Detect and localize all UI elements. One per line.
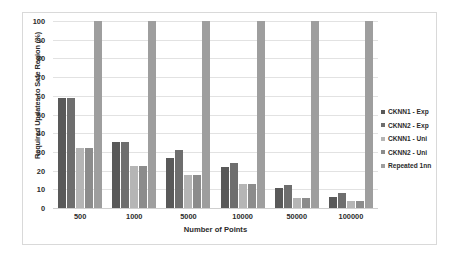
x-axis-title: Number of Points [53, 225, 378, 234]
x-axis-tick-label: 1000 [107, 212, 161, 221]
bar-groups [53, 21, 378, 208]
legend-label: CKNN2 - Exp [388, 122, 429, 129]
bar [67, 98, 75, 208]
y-axis-tick-label: 40 [15, 129, 45, 138]
bar [112, 142, 120, 208]
bar [356, 201, 364, 208]
y-axis-tick-label: 50 [15, 111, 45, 120]
legend-swatch-icon [381, 123, 385, 127]
x-axis-tick-label: 5000 [161, 212, 215, 221]
bar-group [216, 21, 270, 208]
bar [175, 150, 183, 208]
bar-group [53, 21, 107, 208]
legend-swatch-icon [381, 164, 385, 168]
bar [239, 184, 247, 208]
bar [338, 193, 346, 208]
bar [139, 166, 147, 208]
y-axis-tick-label: 80 [15, 54, 45, 63]
plot-area: 1009080706050403020100 [53, 21, 378, 208]
legend-label: CKNN1 - Exp [388, 108, 429, 115]
bar [121, 142, 129, 208]
bar [230, 163, 238, 208]
legend-swatch-icon [381, 150, 385, 154]
bar [148, 21, 156, 208]
bar [347, 201, 355, 208]
bar-group [161, 21, 215, 208]
bar [58, 98, 66, 208]
legend-item: CKNN2 - Exp [381, 119, 461, 133]
x-axis-tick-labels: 500100050001000050000100000 [53, 212, 378, 221]
legend-swatch-icon [381, 137, 385, 141]
bar [365, 21, 373, 208]
bar [193, 175, 201, 208]
bar-group [324, 21, 378, 208]
bar [248, 184, 256, 208]
chart-legend: CKNN1 - ExpCKNN2 - ExpCKNN1 - UniCKNN2 -… [381, 105, 461, 173]
bar-group [270, 21, 324, 208]
legend-item: Repeated 1nn [381, 159, 461, 173]
legend-item: CKNN1 - Exp [381, 105, 461, 119]
bar [166, 158, 174, 208]
bar [329, 197, 337, 208]
y-axis-tick-label: 0 [15, 204, 45, 213]
bar [311, 21, 319, 208]
bar [293, 198, 301, 208]
x-axis-tick-label: 50000 [270, 212, 324, 221]
legend-item: CKNN1 - Uni [381, 132, 461, 146]
legend-swatch-icon [381, 110, 385, 114]
bar [202, 21, 210, 208]
y-axis-tick-label: 10 [15, 185, 45, 194]
bar [221, 167, 229, 208]
bar [184, 175, 192, 208]
bar [302, 198, 310, 208]
y-axis-tick-label: 90 [15, 36, 45, 45]
bar [76, 148, 84, 208]
bar [284, 185, 292, 208]
x-axis-tick-label: 500 [53, 212, 107, 221]
x-axis-tick-label: 100000 [324, 212, 378, 221]
bar [257, 21, 265, 208]
bar-group [107, 21, 161, 208]
legend-label: CKNN1 - Uni [388, 135, 427, 142]
y-axis-tick-label: 70 [15, 73, 45, 82]
chart-frame: Required Updates to Safe Region (%) 1009… [22, 12, 437, 245]
legend-label: Repeated 1nn [388, 162, 431, 169]
bar [94, 21, 102, 208]
y-axis-tick-label: 20 [15, 167, 45, 176]
x-axis-tick-label: 10000 [216, 212, 270, 221]
y-axis-tick-label: 100 [15, 17, 45, 26]
y-axis-tick-label: 30 [15, 148, 45, 157]
bar [130, 166, 138, 208]
y-axis-tick-label: 60 [15, 92, 45, 101]
bar [275, 188, 283, 208]
gridline [53, 208, 378, 209]
legend-label: CKNN2 - Uni [388, 149, 427, 156]
bar [85, 148, 93, 208]
legend-item: CKNN2 - Uni [381, 146, 461, 160]
